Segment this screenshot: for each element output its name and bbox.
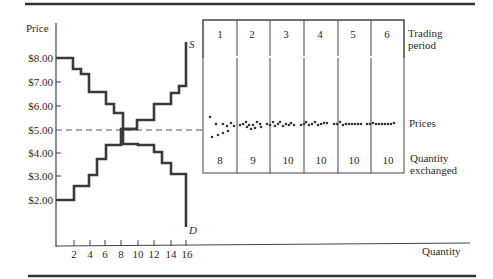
price-dot bbox=[345, 123, 348, 126]
quantity-exchanged-label-2: exchanged bbox=[410, 164, 458, 176]
price-dot bbox=[272, 121, 275, 124]
price-dot bbox=[360, 123, 363, 126]
price-dot bbox=[254, 127, 257, 130]
svg-text:6: 6 bbox=[102, 248, 108, 260]
price-dot bbox=[282, 125, 285, 128]
price-dot bbox=[215, 123, 218, 126]
price-dot bbox=[230, 122, 233, 125]
price-dot bbox=[239, 124, 242, 127]
svg-text:1: 1 bbox=[217, 28, 223, 40]
price-dot bbox=[323, 122, 326, 125]
price-dot bbox=[227, 130, 230, 133]
price-dot bbox=[290, 122, 293, 125]
price-dot bbox=[222, 123, 225, 126]
x-axis bbox=[56, 243, 470, 246]
svg-text:$6.00: $6.00 bbox=[28, 100, 53, 112]
trading-period-label-1: Trading bbox=[408, 27, 443, 39]
y-ticks bbox=[56, 82, 61, 176]
price-dot bbox=[317, 124, 320, 127]
svg-text:8: 8 bbox=[217, 154, 223, 166]
svg-text:$3.00: $3.00 bbox=[28, 170, 53, 182]
svg-text:3: 3 bbox=[283, 28, 289, 40]
price-dot bbox=[366, 123, 369, 126]
svg-text:2: 2 bbox=[249, 28, 255, 40]
price-dot bbox=[222, 132, 225, 135]
svg-text:16: 16 bbox=[182, 248, 194, 260]
price-dot bbox=[246, 126, 249, 129]
svg-text:4: 4 bbox=[87, 248, 93, 260]
price-dot bbox=[245, 121, 248, 124]
price-dot bbox=[242, 123, 245, 126]
price-dot bbox=[336, 123, 339, 126]
price-dot bbox=[233, 125, 236, 128]
svg-text:14: 14 bbox=[166, 248, 178, 260]
svg-text:4: 4 bbox=[317, 28, 323, 40]
price-dot bbox=[269, 124, 272, 127]
price-dot bbox=[217, 134, 220, 137]
price-dot bbox=[279, 121, 282, 124]
price-dot bbox=[354, 123, 357, 126]
svg-text:9: 9 bbox=[250, 154, 256, 166]
demand-label: D bbox=[188, 224, 197, 236]
price-dot bbox=[378, 123, 381, 126]
price-dot bbox=[260, 126, 263, 129]
svg-text:2: 2 bbox=[71, 248, 77, 260]
svg-text:10: 10 bbox=[133, 248, 145, 260]
price-dot bbox=[357, 123, 360, 126]
svg-text:8: 8 bbox=[118, 248, 124, 260]
price-dot bbox=[326, 122, 329, 125]
price-dot bbox=[303, 123, 306, 126]
svg-text:10: 10 bbox=[383, 154, 395, 166]
svg-text:10: 10 bbox=[316, 154, 328, 166]
quantity-exchanged-label-1: Quantity bbox=[410, 152, 449, 164]
price-dot bbox=[320, 123, 323, 126]
price-dot bbox=[390, 123, 393, 126]
price-dot bbox=[285, 123, 288, 126]
price-dot bbox=[250, 128, 253, 131]
x-tick-labels: 2 4 6 8 10 12 14 16 bbox=[71, 248, 193, 260]
price-dot bbox=[333, 123, 336, 126]
supply-curve bbox=[56, 42, 186, 200]
price-dot bbox=[248, 124, 251, 127]
price-dot bbox=[339, 121, 342, 124]
svg-text:$4.00: $4.00 bbox=[28, 147, 53, 159]
trading-period-label-2: period bbox=[408, 39, 437, 51]
price-dot bbox=[256, 121, 259, 124]
price-dot bbox=[314, 121, 317, 124]
price-dot bbox=[226, 125, 229, 128]
svg-text:10: 10 bbox=[349, 154, 361, 166]
y-axis-label: Price bbox=[26, 22, 49, 34]
price-dot bbox=[369, 123, 372, 126]
svg-text:$7.00: $7.00 bbox=[28, 76, 53, 88]
price-dot bbox=[305, 121, 308, 124]
quantity-exchanged-values: 8 9 10 10 10 10 bbox=[217, 154, 394, 166]
svg-text:10: 10 bbox=[283, 154, 295, 166]
price-dot bbox=[252, 124, 255, 127]
price-dot bbox=[300, 124, 303, 127]
price-dot bbox=[288, 124, 291, 127]
price-dot bbox=[381, 123, 384, 126]
price-dot bbox=[259, 123, 262, 126]
price-dot bbox=[308, 124, 311, 127]
price-dot bbox=[293, 124, 296, 127]
svg-text:$8.00: $8.00 bbox=[28, 52, 53, 64]
price-dot bbox=[375, 123, 378, 126]
price-dot bbox=[277, 123, 280, 126]
svg-text:5: 5 bbox=[350, 28, 356, 40]
price-dot bbox=[372, 122, 375, 125]
price-dot bbox=[342, 124, 345, 127]
y-tick-labels: $8.00 $7.00 $6.00 $5.00 $4.00 $3.00 $2.0… bbox=[28, 52, 53, 206]
svg-text:6: 6 bbox=[384, 28, 390, 40]
price-dot bbox=[387, 123, 390, 126]
x-axis-label: Quantity bbox=[422, 245, 461, 257]
price-dot bbox=[266, 123, 269, 126]
price-dot bbox=[274, 125, 277, 128]
price-dot bbox=[348, 123, 351, 126]
prices-label: Prices bbox=[409, 117, 436, 129]
price-dot bbox=[393, 122, 396, 125]
price-dot bbox=[351, 123, 354, 126]
trading-period-table bbox=[203, 20, 404, 173]
svg-text:$5.00: $5.00 bbox=[28, 124, 53, 136]
price-dot bbox=[209, 116, 212, 119]
supply-label: S bbox=[189, 38, 195, 50]
